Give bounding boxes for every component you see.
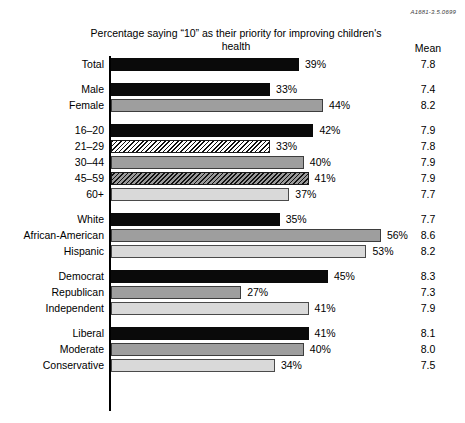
bar-value-label: 27% xyxy=(247,286,268,299)
bar-row-label: 16–20 xyxy=(0,122,104,138)
bar xyxy=(111,140,270,153)
bar-row-label: Hispanic xyxy=(0,243,104,259)
mean-value: 7.7 xyxy=(398,186,458,202)
bar xyxy=(111,188,289,201)
bar xyxy=(111,83,270,96)
chart-title: Percentage saying “10” as their priority… xyxy=(86,27,386,53)
mean-value: 7.8 xyxy=(398,138,458,154)
bar-row-label: 60+ xyxy=(0,186,104,202)
bar xyxy=(111,270,328,283)
bar xyxy=(111,245,366,258)
group-spacer xyxy=(0,202,465,211)
bar-row: Independent41%7.9 xyxy=(0,300,465,316)
bar-rows: Total39%7.8Male33%7.4Female44%8.216–2042… xyxy=(0,56,465,373)
plot-area: Total39%7.8Male33%7.4Female44%8.216–2042… xyxy=(0,56,465,373)
group-spacer xyxy=(0,259,465,268)
bar-row: African-American56%8.6 xyxy=(0,227,465,243)
bar-value-label: 33% xyxy=(276,140,297,153)
mean-value: 8.0 xyxy=(398,341,458,357)
bar-value-label: 53% xyxy=(372,245,393,258)
bar-value-label: 39% xyxy=(305,58,326,71)
mean-value: 8.6 xyxy=(398,227,458,243)
mean-value: 7.3 xyxy=(398,284,458,300)
bar-row: 60+37%7.7 xyxy=(0,186,465,202)
mean-value: 7.8 xyxy=(398,56,458,72)
bar-value-label: 40% xyxy=(310,156,331,169)
bar-row-label: Moderate xyxy=(0,341,104,357)
mean-value: 7.9 xyxy=(398,170,458,186)
bar-value-label: 34% xyxy=(281,359,302,372)
bar-row: 45–5941%7.9 xyxy=(0,170,465,186)
bar xyxy=(111,327,309,340)
bar-row: Conservative34%7.5 xyxy=(0,357,465,373)
bar-value-label: 40% xyxy=(310,343,331,356)
bar xyxy=(111,286,241,299)
bar-row-label: 30–44 xyxy=(0,154,104,170)
bar-value-label: 44% xyxy=(329,99,350,112)
mean-value: 7.5 xyxy=(398,357,458,373)
bar-row: Total39%7.8 xyxy=(0,56,465,72)
bar-value-label: 35% xyxy=(286,213,307,226)
bar-row: 16–2042%7.9 xyxy=(0,122,465,138)
bar-row: 30–4440%7.9 xyxy=(0,154,465,170)
bar-row-label: White xyxy=(0,211,104,227)
bar-row-label: Republican xyxy=(0,284,104,300)
bar-row-label: African-American xyxy=(0,227,104,243)
bar-row-label: Male xyxy=(0,81,104,97)
bar-row-label: Total xyxy=(0,56,104,72)
group-spacer xyxy=(0,316,465,325)
bar-value-label: 45% xyxy=(334,270,355,283)
bar-row: Liberal41%8.1 xyxy=(0,325,465,341)
bar-value-label: 42% xyxy=(319,124,340,137)
bar xyxy=(111,172,309,185)
group-spacer xyxy=(0,113,465,122)
mean-value: 7.9 xyxy=(398,154,458,170)
bar xyxy=(111,99,323,112)
bar-value-label: 37% xyxy=(295,188,316,201)
bar-row-label: 45–59 xyxy=(0,170,104,186)
bar xyxy=(111,156,304,169)
bar xyxy=(111,343,304,356)
bar-row: Hispanic53%8.2 xyxy=(0,243,465,259)
mean-value: 7.7 xyxy=(398,211,458,227)
mean-value: 7.4 xyxy=(398,81,458,97)
bar-row: Male33%7.4 xyxy=(0,81,465,97)
bar-row: Female44%8.2 xyxy=(0,97,465,113)
mean-value: 8.3 xyxy=(398,268,458,284)
bar-value-label: 41% xyxy=(315,327,336,340)
bar-row-label: Independent xyxy=(0,300,104,316)
bar-value-label: 41% xyxy=(315,172,336,185)
bar-row-label: Female xyxy=(0,97,104,113)
bar-row-label: Liberal xyxy=(0,325,104,341)
bar-value-label: 41% xyxy=(315,302,336,315)
chart-container: A1681-3.5.0699 Percentage saying “10” as… xyxy=(0,0,465,423)
mean-value: 7.9 xyxy=(398,122,458,138)
bar-value-label: 33% xyxy=(276,83,297,96)
bar-row: White35%7.7 xyxy=(0,211,465,227)
bar xyxy=(111,58,299,71)
group-spacer xyxy=(0,72,465,81)
mean-value: 8.2 xyxy=(398,243,458,259)
bar xyxy=(111,124,313,137)
mean-value: 8.2 xyxy=(398,97,458,113)
mean-column-header: Mean xyxy=(398,42,458,54)
bar xyxy=(111,359,275,372)
bar-row: Republican27%7.3 xyxy=(0,284,465,300)
bar-row-label: 21–29 xyxy=(0,138,104,154)
bar xyxy=(111,302,309,315)
bar xyxy=(111,229,381,242)
bar-row-label: Democrat xyxy=(0,268,104,284)
mean-value: 7.9 xyxy=(398,300,458,316)
bar-row: 21–2933%7.8 xyxy=(0,138,465,154)
reference-code: A1681-3.5.0699 xyxy=(410,9,456,15)
bar xyxy=(111,213,280,226)
bar-row: Democrat45%8.3 xyxy=(0,268,465,284)
bar-row: Moderate40%8.0 xyxy=(0,341,465,357)
bar-row-label: Conservative xyxy=(0,357,104,373)
mean-value: 8.1 xyxy=(398,325,458,341)
